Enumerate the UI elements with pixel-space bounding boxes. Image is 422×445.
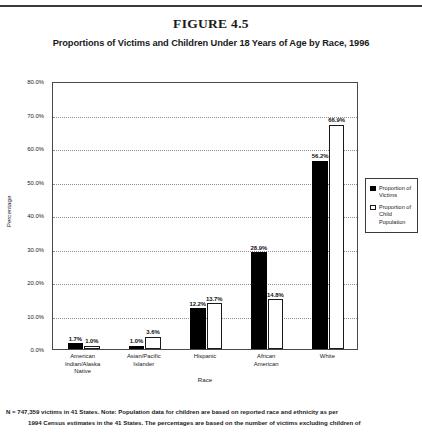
bar-value-label: 1.0% [85,338,98,344]
x-axis-category-label: Asian/Pacific Islander [127,353,161,368]
legend-swatch-child-population-icon [370,205,376,210]
bar-value-label: 1.7% [69,336,82,342]
bar-child-population [145,337,161,349]
y-axis-tick-label: 10.0% [27,314,44,320]
bar-value-label: 14.8% [267,292,284,298]
y-axis-tick-label: 20.0% [27,280,44,286]
legend-swatch-victims-icon [370,186,376,191]
bar-value-label: 28.9% [251,245,268,251]
bar-value-label: 3.6% [146,329,159,335]
legend-item-child-population: Proportion of Child Population [370,204,414,226]
bar-victims [129,346,145,349]
y-axis-tick-label: 60.0% [27,146,44,152]
bar-victims [251,252,267,349]
bar-value-label: 12.2% [189,301,206,307]
legend-label-child-population: Proportion of Child Population [379,204,414,226]
figure-number: FIGURE 4.5 [0,16,422,32]
footnote-line-2: 1994 Census estimates in the 41 States. … [6,417,416,428]
y-axis-tick-label: 0.0% [31,347,44,353]
bar-child-population [329,125,345,349]
y-axis-tick-label: 80.0% [27,79,44,85]
chart-legend: Proportion of Victims Proportion of Chil… [365,178,418,233]
footnote-line-1: N = 747,359 victims in 41 States. Note: … [6,408,338,415]
x-axis-title: Race [52,376,358,383]
bar-child-population [207,303,223,349]
y-axis-title: Percentage [5,182,12,242]
bar-value-label: 1.0% [130,338,143,344]
plot-area: 1.7%1.0%1.0%3.6%12.2%13.7%28.9%14.8%56.2… [52,82,358,350]
y-axis-tick-label: 50.0% [27,180,44,186]
legend-label-victims: Proportion of Victims [379,185,414,200]
bar-value-label: 56.2% [312,153,329,159]
legend-item-victims: Proportion of Victims [370,185,414,200]
y-axis-tick-label: 30.0% [27,247,44,253]
bar-child-population [268,299,284,349]
bar-victims [68,343,84,349]
y-axis-tick-label: 70.0% [27,113,44,119]
footnote: N = 747,359 victims in 41 States. Note: … [6,406,416,428]
figure-subtitle: Proportions of Victims and Children Unde… [0,38,422,48]
x-axis-category-label: White [320,353,335,361]
x-axis-category-label: African American [254,353,279,368]
bar-plot: 1.7%1.0%1.0%3.6%12.2%13.7%28.9%14.8%56.2… [53,83,357,349]
bar-victims [312,161,328,349]
bar-child-population [84,346,100,349]
y-axis-tick-label: 40.0% [27,213,44,219]
bar-value-label: 13.7% [206,296,223,302]
bar-victims [190,308,206,349]
header-rule [0,5,422,7]
x-axis-category-label: Hispanic [194,353,217,361]
bar-value-label: 66.9% [328,117,345,123]
x-axis-category-label: American Indian/Alaska Native [65,353,100,376]
